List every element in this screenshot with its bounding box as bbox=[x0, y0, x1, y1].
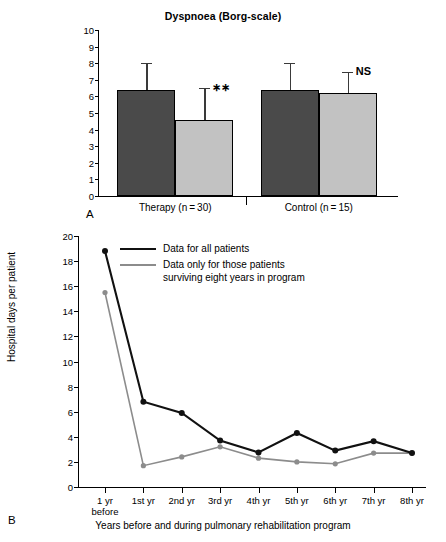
legend-label-all-patients: Data for all patients bbox=[163, 242, 249, 255]
chart-b-x-tick-mark bbox=[412, 487, 413, 493]
chart-b-x-tick-mark bbox=[297, 487, 298, 493]
chart-a-error-cap bbox=[342, 72, 353, 73]
chart-b-x-tick-mark bbox=[374, 487, 375, 493]
chart-a-plot-area: 012345678910∗∗Therapy (n = 30)NSControl … bbox=[98, 30, 398, 197]
chart-b-y-tick-mark bbox=[74, 487, 79, 488]
chart-b-x-tick-label: 2nd yr bbox=[169, 495, 195, 506]
chart-b-data-point bbox=[294, 430, 300, 436]
chart-b-x-tick-label: 8th yr bbox=[400, 495, 424, 506]
chart-b-data-point bbox=[332, 448, 338, 454]
chart-b-data-point bbox=[217, 438, 223, 444]
chart-b-data-point bbox=[333, 461, 338, 466]
chart-b-data-point bbox=[140, 399, 146, 405]
chart-b-series-line bbox=[105, 292, 412, 465]
chart-a-bar bbox=[319, 93, 377, 196]
chart-b-x-tick-label: 7th yr bbox=[362, 495, 386, 506]
legend-label-survivors-line2: surviving eight years in program bbox=[163, 272, 305, 283]
legend-item-all-patients: Data for all patients bbox=[120, 242, 305, 255]
panel-a-bar-chart: Dyspnoea (Borg-scale) 012345678910∗∗Ther… bbox=[0, 0, 446, 232]
chart-a-bar bbox=[261, 90, 319, 196]
chart-b-data-point bbox=[256, 449, 262, 455]
chart-a-title: Dyspnoea (Borg-scale) bbox=[0, 10, 446, 22]
chart-b-x-tick-mark bbox=[143, 487, 144, 493]
chart-b-data-point bbox=[256, 456, 261, 461]
chart-b-data-point bbox=[371, 451, 376, 456]
chart-a-error-bar bbox=[290, 63, 291, 90]
legend-item-survivors: Data only for those patients surviving e… bbox=[120, 258, 305, 284]
chart-b-data-point bbox=[141, 463, 146, 468]
chart-b-x-tick-mark bbox=[105, 487, 106, 493]
chart-b-x-tick-mark bbox=[220, 487, 221, 493]
chart-b-data-point bbox=[102, 248, 108, 254]
chart-b-x-tick-label: 4th yr bbox=[247, 495, 271, 506]
chart-b-data-point bbox=[371, 438, 377, 444]
chart-b-data-point bbox=[409, 450, 415, 456]
chart-b-data-point bbox=[179, 454, 184, 459]
chart-b-x-tick-mark bbox=[259, 487, 260, 493]
chart-a-significance-annotation: NS bbox=[356, 65, 371, 77]
chart-b-x-tick-label: 5th yr bbox=[285, 495, 309, 506]
chart-b-x-tick-label: 3rd yr bbox=[208, 495, 232, 506]
chart-b-data-point bbox=[102, 290, 107, 295]
chart-b-legend: Data for all patients Data only for thos… bbox=[120, 242, 305, 287]
chart-b-x-tick-label: 1st yr bbox=[132, 495, 155, 506]
chart-b-data-point bbox=[218, 444, 223, 449]
legend-swatch-survivors bbox=[120, 264, 156, 266]
chart-b-x-tick-label: 6th yr bbox=[323, 495, 347, 506]
chart-b-x-axis-label: Years before and during pulmonary rehabi… bbox=[0, 520, 446, 531]
chart-a-x-axis-divider-tick bbox=[246, 196, 247, 205]
chart-b-x-tick-mark bbox=[335, 487, 336, 493]
panel-b-line-chart: Hospital days per patient 02468101214161… bbox=[0, 214, 446, 542]
chart-a-group-label: Control (n = 15) bbox=[285, 202, 353, 213]
chart-b-data-point bbox=[294, 459, 299, 464]
chart-a-y-tick-mark bbox=[95, 196, 99, 197]
legend-label-survivors-line1: Data only for those patients bbox=[163, 259, 285, 270]
chart-b-data-point bbox=[179, 410, 185, 416]
legend-swatch-all-patients bbox=[120, 248, 156, 250]
panel-b-label: B bbox=[8, 514, 16, 526]
chart-b-x-tick-mark bbox=[182, 487, 183, 493]
chart-a-group-label: Therapy (n = 30) bbox=[139, 202, 212, 213]
chart-b-x-tick-label: 1 yrbefore bbox=[92, 495, 119, 517]
chart-b-y-axis-label: Hospital days per patient bbox=[6, 252, 17, 362]
chart-a-error-bar bbox=[348, 72, 349, 94]
chart-a-error-cap bbox=[284, 63, 295, 64]
chart-a-bar-group: NSControl (n = 15) bbox=[99, 30, 398, 196]
